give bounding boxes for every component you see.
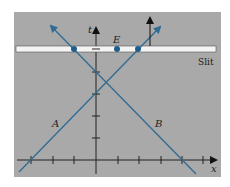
slit-dot-right (135, 46, 141, 52)
slit-label: Slit (198, 57, 214, 67)
line-a-label: A (51, 118, 59, 129)
event-dot-e (114, 46, 120, 52)
x-axis-label: x (211, 163, 217, 174)
slit-dot-left (71, 46, 77, 52)
event-label: E (112, 34, 121, 45)
line-b-label: B (154, 118, 162, 129)
spacetime-diagram: t x E Slit A B (0, 0, 230, 187)
